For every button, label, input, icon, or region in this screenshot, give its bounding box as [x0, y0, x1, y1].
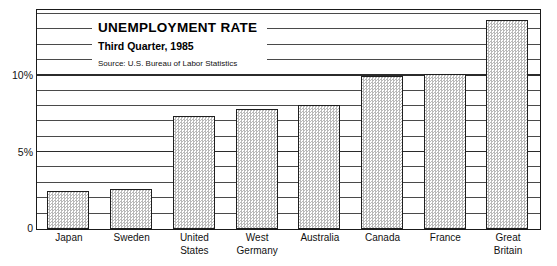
chart-subtitle: Third Quarter, 1985 [98, 39, 257, 54]
bar-australia [298, 105, 340, 229]
unemployment-rate-bar-chart: 05%10% UNEMPLOYMENT RATE Third Quarter, … [0, 0, 557, 266]
x-axis-tick-label: France [414, 232, 477, 245]
x-axis-tick-label: Australia [289, 232, 352, 245]
x-axis-tick-label: UnitedStates [163, 232, 226, 257]
bar-france [424, 74, 466, 229]
y-axis-tick-labels: 05%10% [0, 0, 33, 266]
x-axis-category-labels: JapanSwedenUnitedStatesWestGermanyAustra… [36, 232, 541, 266]
x-axis-tick-label: Sweden [100, 232, 163, 245]
title-block: UNEMPLOYMENT RATE Third Quarter, 1985 So… [92, 18, 267, 73]
chart-source-note: Source: U.S. Bureau of Labor Statistics [98, 58, 257, 70]
x-axis-tick-label: Canada [351, 232, 414, 245]
x-axis-tick-label: GreatBritain [477, 232, 540, 257]
chart-title: UNEMPLOYMENT RATE [98, 20, 257, 36]
x-axis-tick-label: Japan [38, 232, 101, 245]
bar-japan [47, 191, 89, 229]
bar-canada [361, 76, 403, 229]
y-axis-tick-label: 5% [3, 147, 33, 157]
bar-united-states [173, 116, 215, 230]
bar-great-britain [486, 20, 528, 229]
y-axis-tick-label: 10% [3, 70, 33, 80]
bar-sweden [110, 189, 152, 229]
bar-west-germany [236, 109, 278, 229]
x-axis-tick-label: WestGermany [226, 232, 289, 257]
y-axis-tick-label: 0 [3, 223, 33, 233]
